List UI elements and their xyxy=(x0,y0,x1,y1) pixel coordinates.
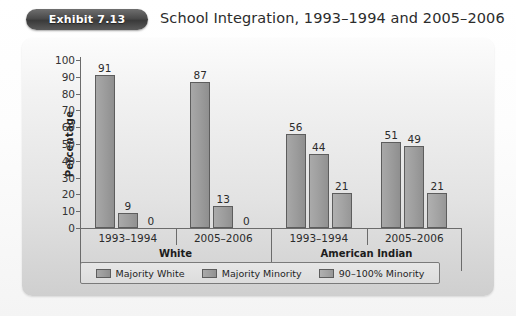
y-tick-label: 80 xyxy=(49,88,75,100)
y-tick-mark xyxy=(76,127,80,128)
legend-label: 90–100% Minority xyxy=(339,268,425,279)
chart-page: Exhibit 7.13 School Integration, 1993–19… xyxy=(0,0,516,316)
exhibit-header: Exhibit 7.13 School Integration, 1993–19… xyxy=(0,0,516,38)
bar-value-label: 13 xyxy=(217,193,230,205)
bar-3-1: 49 xyxy=(404,146,424,228)
bar-value-label: 21 xyxy=(431,180,444,192)
bar-value-label: 21 xyxy=(335,180,348,192)
y-tick-mark xyxy=(76,194,80,195)
chart-legend: Majority WhiteMajority Minority90–100% M… xyxy=(80,262,440,284)
category-label: 2005–2006 xyxy=(176,232,272,244)
y-tick-label: 60 xyxy=(49,121,75,133)
bar-value-label: 0 xyxy=(243,215,250,227)
y-tick-label: 30 xyxy=(49,172,75,184)
y-tick-label: 20 xyxy=(49,188,75,200)
legend-item-1[interactable]: Majority Minority xyxy=(202,268,302,279)
group-label: American Indian xyxy=(271,248,462,259)
y-tick-label: 0 xyxy=(49,222,75,234)
bar-2-1: 44 xyxy=(309,154,329,228)
legend-item-2[interactable]: 90–100% Minority xyxy=(319,268,425,279)
y-tick-mark xyxy=(76,60,80,61)
y-tick-mark xyxy=(76,77,80,78)
plot-area: Percentage 1009080706050403020100 919087… xyxy=(80,60,462,228)
y-tick-mark xyxy=(76,94,80,95)
category-label: 1993–1994 xyxy=(80,232,176,244)
y-tick-label: 100 xyxy=(49,54,75,66)
bar-value-label: 9 xyxy=(124,200,131,212)
y-tick-label: 70 xyxy=(49,104,75,116)
bar-value-label: 49 xyxy=(408,133,421,145)
y-tick-mark xyxy=(76,144,80,145)
legend-swatch xyxy=(319,269,334,278)
legend-swatch xyxy=(202,269,217,278)
bar-3-2: 21 xyxy=(427,193,447,228)
bar-3-0: 51 xyxy=(381,142,401,228)
exhibit-badge-label: Exhibit 7.13 xyxy=(49,13,125,26)
legend-label: Majority White xyxy=(116,268,185,279)
exhibit-badge: Exhibit 7.13 xyxy=(26,9,148,30)
y-axis-line xyxy=(80,57,81,228)
bar-value-label: 44 xyxy=(312,141,325,153)
bar-value-label: 0 xyxy=(147,215,154,227)
chart-panel: Percentage 1009080706050403020100 919087… xyxy=(22,38,494,296)
legend-item-0[interactable]: Majority White xyxy=(96,268,185,279)
bar-2-0: 56 xyxy=(286,134,306,228)
category-label: 2005–2006 xyxy=(367,232,463,244)
y-tick-label: 90 xyxy=(49,71,75,83)
y-tick-mark xyxy=(76,161,80,162)
bar-1-0: 87 xyxy=(190,82,210,228)
bar-0-1: 9 xyxy=(118,213,138,228)
y-tick-label: 10 xyxy=(49,205,75,217)
y-tick-label: 50 xyxy=(49,138,75,150)
y-tick-mark xyxy=(76,178,80,179)
y-tick-label: 40 xyxy=(49,155,75,167)
bar-value-label: 51 xyxy=(385,129,398,141)
bar-value-label: 87 xyxy=(194,69,207,81)
legend-swatch xyxy=(96,269,111,278)
y-tick-mark xyxy=(76,211,80,212)
y-tick-mark xyxy=(76,110,80,111)
bar-2-2: 21 xyxy=(332,193,352,228)
bar-value-label: 56 xyxy=(289,121,302,133)
bar-0-0: 91 xyxy=(95,75,115,228)
legend-label: Majority Minority xyxy=(222,268,302,279)
category-label: 1993–1994 xyxy=(271,232,367,244)
chart-title: School Integration, 1993–1994 and 2005–2… xyxy=(160,10,505,26)
bar-value-label: 91 xyxy=(98,62,111,74)
group-label: White xyxy=(80,248,271,259)
bar-1-1: 13 xyxy=(213,206,233,228)
